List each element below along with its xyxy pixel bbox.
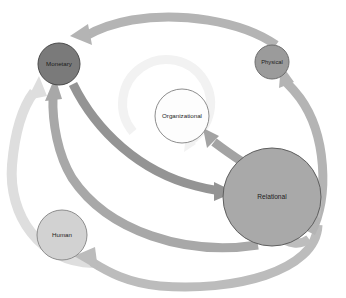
node-physical-label: Physical: [261, 59, 283, 65]
diagram-canvas: Monetary Physical Organizational Relatio…: [0, 0, 346, 298]
node-physical[interactable]: Physical: [255, 45, 289, 79]
diagram-svg: Monetary Physical Organizational Relatio…: [0, 0, 346, 298]
node-organizational-label: Organizational: [162, 112, 202, 119]
edge-physical-to-monetary[interactable]: [70, 17, 276, 45]
node-human-label: Human: [52, 231, 73, 238]
node-human[interactable]: Human: [37, 210, 87, 260]
node-relational-label: Relational: [257, 193, 287, 200]
node-organizational[interactable]: Organizational: [155, 89, 209, 143]
edge-relational-to-organizational[interactable]: [203, 128, 241, 161]
node-monetary[interactable]: Monetary: [38, 43, 80, 85]
nodes-layer: Monetary Physical Organizational Relatio…: [37, 43, 321, 260]
node-monetary-label: Monetary: [46, 60, 73, 67]
node-relational[interactable]: Relational: [223, 148, 321, 246]
